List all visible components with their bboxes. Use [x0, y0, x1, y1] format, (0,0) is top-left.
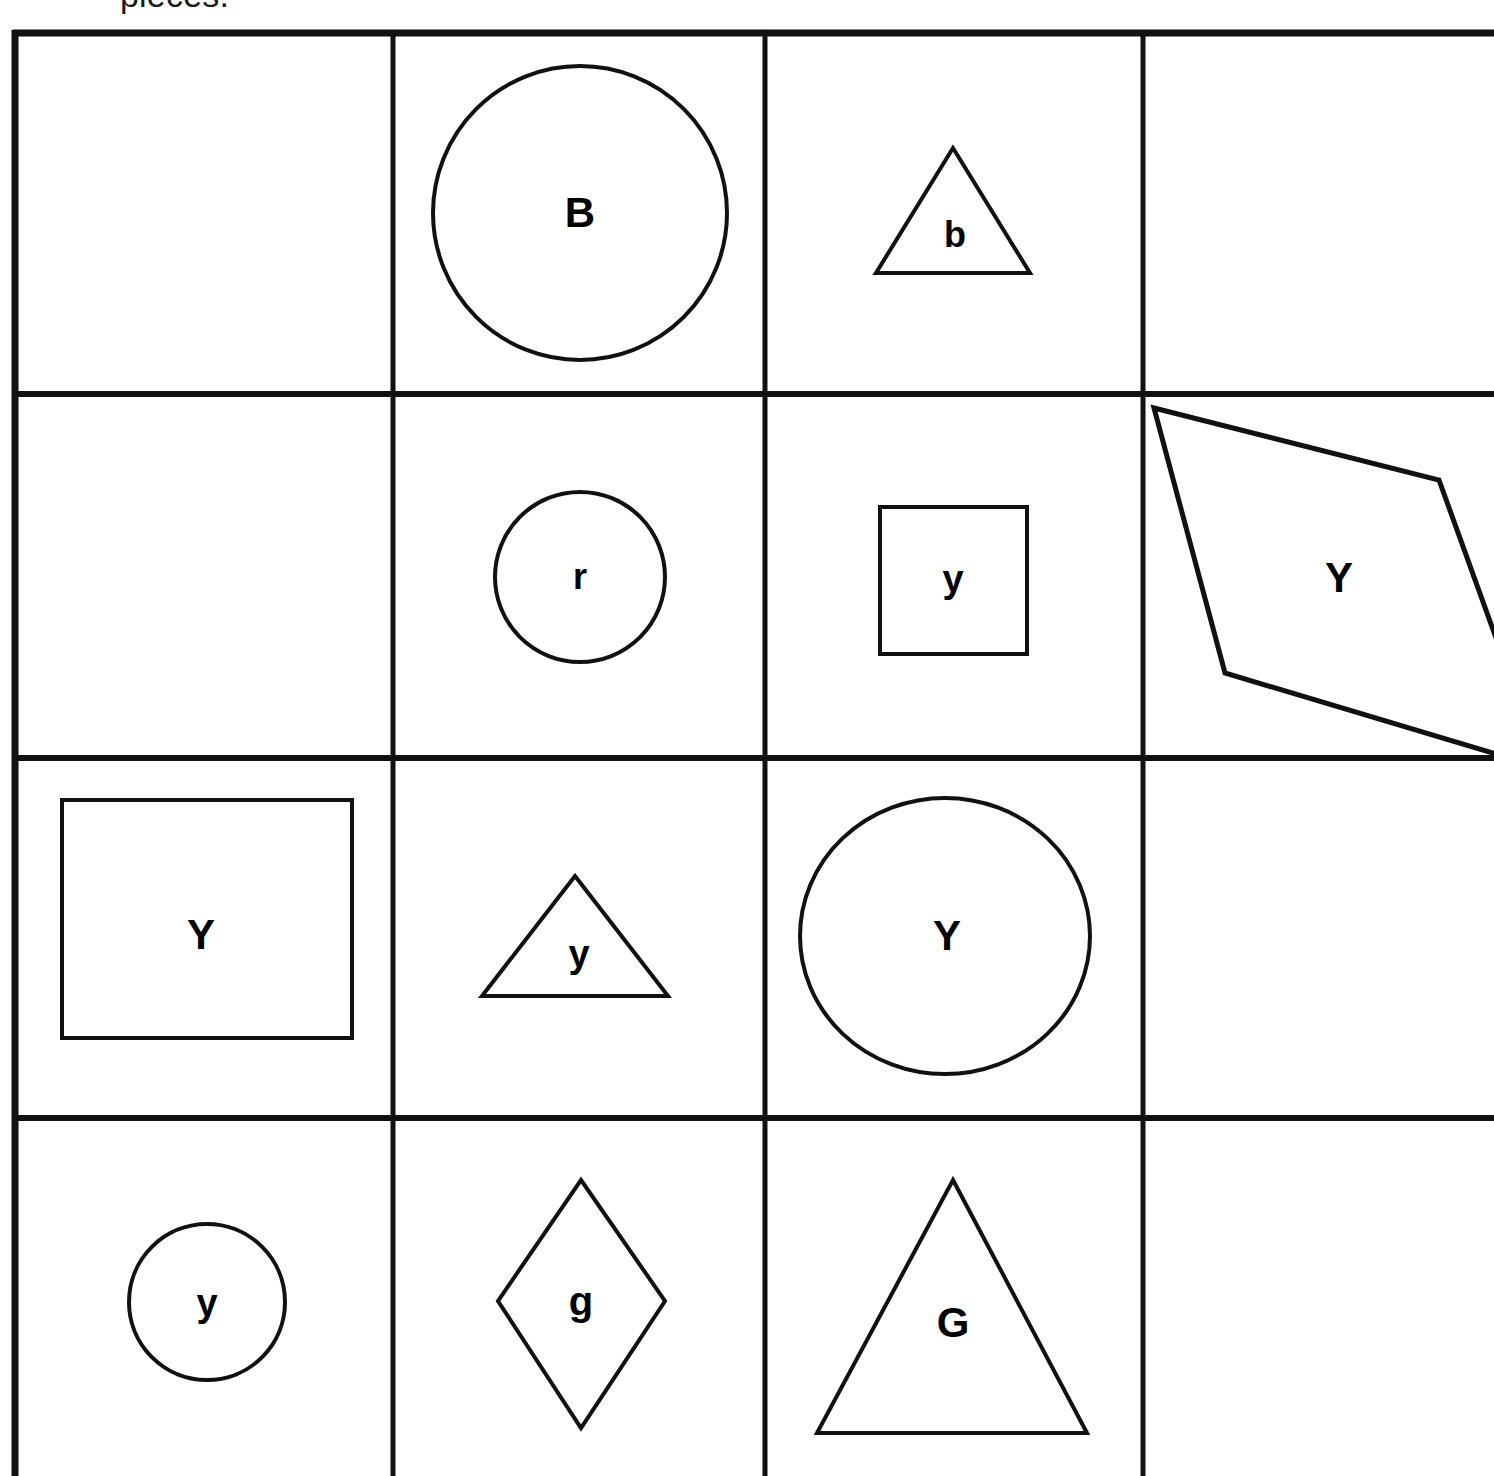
- cell-r4c2[interactable]: g: [393, 1118, 765, 1476]
- cell-r4c3[interactable]: G: [765, 1118, 1143, 1476]
- cell-r3c2[interactable]: y: [393, 758, 765, 1118]
- cell-r3c3[interactable]: Y: [765, 758, 1143, 1118]
- shape-label-r3c2: y: [568, 935, 589, 973]
- shape-label-r3c1: Y: [187, 914, 215, 956]
- shape-label-r4c1: y: [196, 1284, 217, 1322]
- cell-r2c4[interactable]: Y: [1143, 394, 1494, 758]
- shape-label-r4c2: g: [569, 1281, 593, 1321]
- cell-r2c2[interactable]: r: [393, 394, 765, 758]
- cell-r2c1[interactable]: [15, 394, 393, 758]
- shape-label-r3c3: Y: [933, 915, 961, 957]
- cell-r1c2[interactable]: B: [393, 33, 765, 394]
- cell-r1c4[interactable]: [1143, 33, 1494, 394]
- cell-r1c3[interactable]: b: [765, 33, 1143, 394]
- cell-r4c1[interactable]: y: [15, 1118, 393, 1476]
- shape-label-r1c2: B: [565, 192, 595, 234]
- cell-r3c4[interactable]: [1143, 758, 1494, 1118]
- cell-r3c1[interactable]: Y: [15, 758, 393, 1118]
- shape-label-r2c3: y: [942, 560, 963, 598]
- shape-label-r2c4: Y: [1325, 557, 1353, 599]
- triangle-large-shape: [765, 1118, 1143, 1476]
- cell-r1c1[interactable]: [15, 33, 393, 394]
- cell-r4c4[interactable]: [1143, 1118, 1494, 1476]
- shape-label-r1c3: b: [944, 217, 966, 253]
- shape-label-r2c2: r: [573, 559, 587, 595]
- worksheet-page: pieces. B b r: [0, 0, 1494, 1476]
- shape-label-r4c3: G: [937, 1302, 970, 1344]
- cell-r2c3[interactable]: y: [765, 394, 1143, 758]
- parallelogram-large-shape: [1143, 394, 1494, 758]
